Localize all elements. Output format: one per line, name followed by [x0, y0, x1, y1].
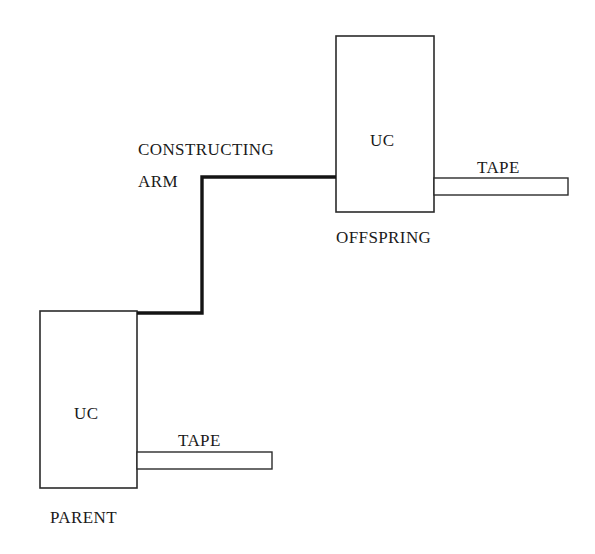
diagram-figure — [0, 0, 595, 554]
parent-name-label: PARENT — [50, 509, 117, 526]
parent-tape-rect — [137, 452, 272, 469]
diagram-canvas: CONSTRUCTING ARM UC OFFSPRING TAPE UC PA… — [0, 0, 595, 554]
offspring-box — [336, 36, 434, 212]
constructing-arm-label-line2: ARM — [138, 173, 178, 190]
constructing-arm-path — [137, 177, 336, 313]
offspring-uc-label: UC — [370, 132, 394, 149]
constructing-arm-label-line1: CONSTRUCTING — [138, 141, 274, 158]
parent-box — [40, 311, 137, 488]
parent-tape-label: TAPE — [178, 432, 221, 449]
offspring-tape-label: TAPE — [477, 159, 520, 176]
offspring-tape-rect — [434, 178, 568, 195]
parent-uc-label: UC — [74, 405, 98, 422]
offspring-name-label: OFFSPRING — [336, 229, 431, 246]
